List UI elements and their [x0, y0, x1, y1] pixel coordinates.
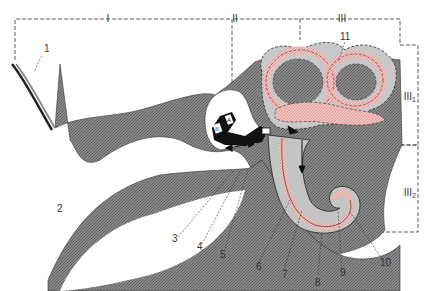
label-2: 2 — [57, 203, 63, 214]
region-middle-label: II — [232, 13, 238, 24]
label-3: 3 — [172, 233, 178, 244]
label-9: 9 — [340, 267, 346, 278]
label-1: 1 — [44, 43, 50, 54]
label-10: 10 — [380, 257, 392, 268]
eardrum — [12, 64, 52, 130]
label-7: 7 — [282, 269, 288, 280]
ear-anatomy-diagram: I II III III1 III2 II A — [0, 0, 427, 291]
label-5: 5 — [220, 249, 226, 260]
label-8: 8 — [315, 277, 321, 288]
label-4: 4 — [197, 241, 203, 252]
region-inner-cochlear-label: III2 — [404, 187, 416, 199]
region-inner-label: III — [338, 13, 346, 24]
incus-label: A — [227, 117, 231, 123]
malleus-label: II — [215, 126, 219, 132]
label-11: 11 — [340, 31, 351, 42]
region-outer-label: I — [107, 13, 110, 24]
label-6: 6 — [256, 261, 262, 272]
region-inner-vestibular-label: III1 — [404, 91, 416, 103]
